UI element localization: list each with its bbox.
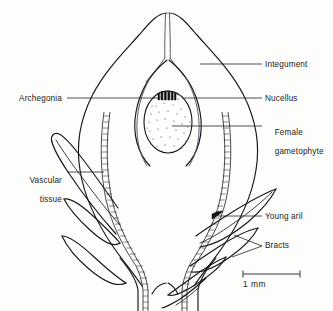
label-female-gametophyte-line2: gametophyte (275, 147, 324, 156)
label-female-gametophyte: Female gametophyte (265, 118, 324, 166)
bract-right-lower (168, 257, 226, 295)
label-nucellus: Nucellus (265, 94, 298, 104)
ovule-diagram-figure: Integument Nucellus Female gametophyte Y… (0, 0, 333, 311)
bract-left-lower (62, 236, 126, 285)
micropyle-canal (146, 14, 189, 82)
label-integument: Integument (265, 60, 307, 70)
label-young-aril: Young aril (265, 212, 303, 222)
label-vascular-tissue-line2: tissue (40, 195, 62, 204)
leader-bracts-fork (232, 235, 262, 257)
label-archegonia: Archegonia (19, 94, 62, 104)
vascular-tissue-right (182, 112, 231, 311)
stalk-walls (120, 258, 216, 311)
label-bracts: Bracts (265, 241, 289, 251)
young-aril (196, 189, 276, 247)
scale-bar-label: 1 mm (243, 280, 266, 290)
label-vascular-tissue: Vascular tissue (20, 166, 62, 214)
label-female-gametophyte-line1: Female (275, 128, 303, 137)
female-gametophyte (144, 91, 192, 153)
scale-bar (243, 271, 300, 278)
bract-right-upper (190, 228, 258, 272)
label-vascular-tissue-line1: Vascular (30, 176, 62, 185)
